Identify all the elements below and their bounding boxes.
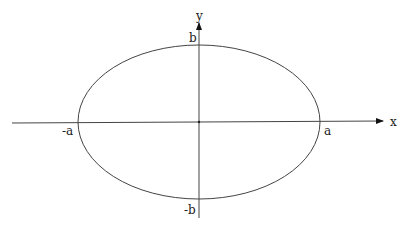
ellipse-diagram: x y b -b a -a [0,0,405,232]
x-axis [12,121,383,123]
origin-point [198,121,200,123]
label-a: a [324,124,331,138]
y-axis-label: y [195,9,203,23]
x-axis-label: x [390,115,397,129]
label-neg-b: -b [184,203,196,217]
label-neg-a: -a [62,124,73,138]
label-b: b [189,31,197,45]
